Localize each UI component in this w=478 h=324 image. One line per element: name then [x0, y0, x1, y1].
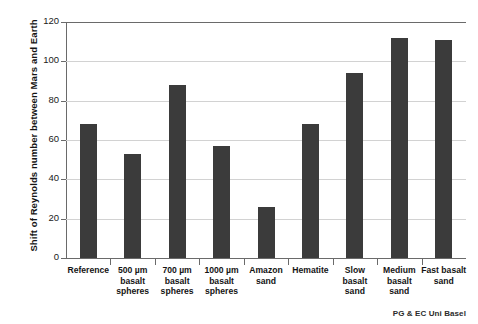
y-tick-label: 80: [48, 94, 59, 105]
x-axis-line: [66, 258, 466, 259]
x-axis-label-line: sand: [418, 276, 470, 287]
x-axis-label-line: spheres: [195, 286, 247, 297]
y-tick-label: 20: [48, 212, 59, 223]
y-axis-title: Shift of Reynolds number between Mars an…: [28, 11, 39, 261]
x-axis-label: Fast basaltsand: [418, 265, 470, 286]
x-axis-labels: Reference500 µmbasaltspheres700 µmbasalt…: [66, 265, 466, 315]
bar: [435, 40, 452, 258]
bar: [302, 124, 319, 258]
plot-area: 020406080100120: [66, 22, 466, 258]
bar: [258, 207, 275, 258]
bar-chart: Shift of Reynolds number between Mars an…: [0, 0, 478, 324]
bar: [346, 73, 363, 258]
credit-text: PG & EC Uni Basel: [393, 309, 466, 318]
x-axis-label-line: sand: [373, 286, 425, 297]
bars-layer: [66, 22, 466, 258]
bar: [124, 154, 141, 258]
y-tick-label: 40: [48, 172, 59, 183]
y-tick-mark: [61, 258, 66, 259]
bar: [169, 85, 186, 258]
x-axis-label-line: sand: [240, 276, 292, 287]
bar: [213, 146, 230, 258]
bar: [80, 124, 97, 258]
y-tick-label: 0: [54, 251, 59, 262]
y-tick-label: 60: [48, 133, 59, 144]
bar: [391, 38, 408, 258]
y-tick-label: 100: [43, 54, 59, 65]
x-axis-label-line: Fast basalt: [418, 265, 470, 276]
y-tick-label: 120: [43, 15, 59, 26]
